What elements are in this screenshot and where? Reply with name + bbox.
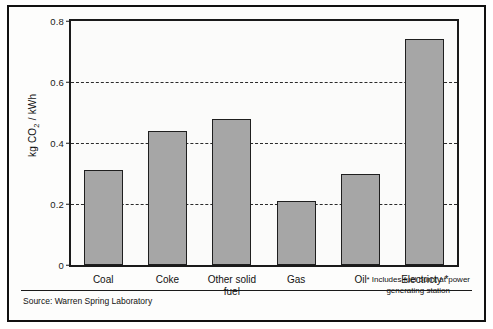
- footer-divider: [21, 290, 472, 291]
- gridline: [71, 143, 457, 144]
- bar: [148, 131, 187, 265]
- y-axis-title-suffix: / kWh: [27, 94, 38, 124]
- x-axis-category-label: Gas: [264, 274, 328, 286]
- y-axis-title-prefix: kg CO: [27, 128, 38, 157]
- bar: [277, 201, 316, 265]
- y-axis-title: kg CO2 / kWh: [27, 94, 41, 157]
- y-axis-tick-label: 0: [59, 260, 71, 271]
- source-note: Source: Warren Spring Laboratory: [23, 296, 152, 306]
- y-axis-tick-label: 0.2: [50, 199, 71, 210]
- gridline: [71, 204, 457, 205]
- bar: [341, 174, 380, 266]
- footnote-text: * Includes fuel burnt at power generatin…: [366, 275, 470, 296]
- x-axis-category-label: Coke: [135, 274, 199, 286]
- bar: [405, 39, 444, 265]
- plot-area: 00.20.40.60.8 CoalCokeOther solid fuelGa…: [69, 19, 459, 267]
- y-axis-title-subscript: 2: [32, 123, 41, 127]
- figure-frame: kg CO2 / kWh 00.20.40.60.8 CoalCokeOther…: [7, 5, 486, 322]
- bar: [212, 119, 251, 265]
- y-axis-tick-label: 0.6: [50, 77, 71, 88]
- gridline: [71, 82, 457, 83]
- y-axis-tick-label: 0.8: [50, 16, 71, 27]
- bar: [84, 170, 123, 265]
- x-axis-category-label: Other solid fuel: [200, 274, 264, 298]
- x-axis-category-label: Coal: [71, 274, 135, 286]
- y-axis-tick-label: 0.4: [50, 138, 71, 149]
